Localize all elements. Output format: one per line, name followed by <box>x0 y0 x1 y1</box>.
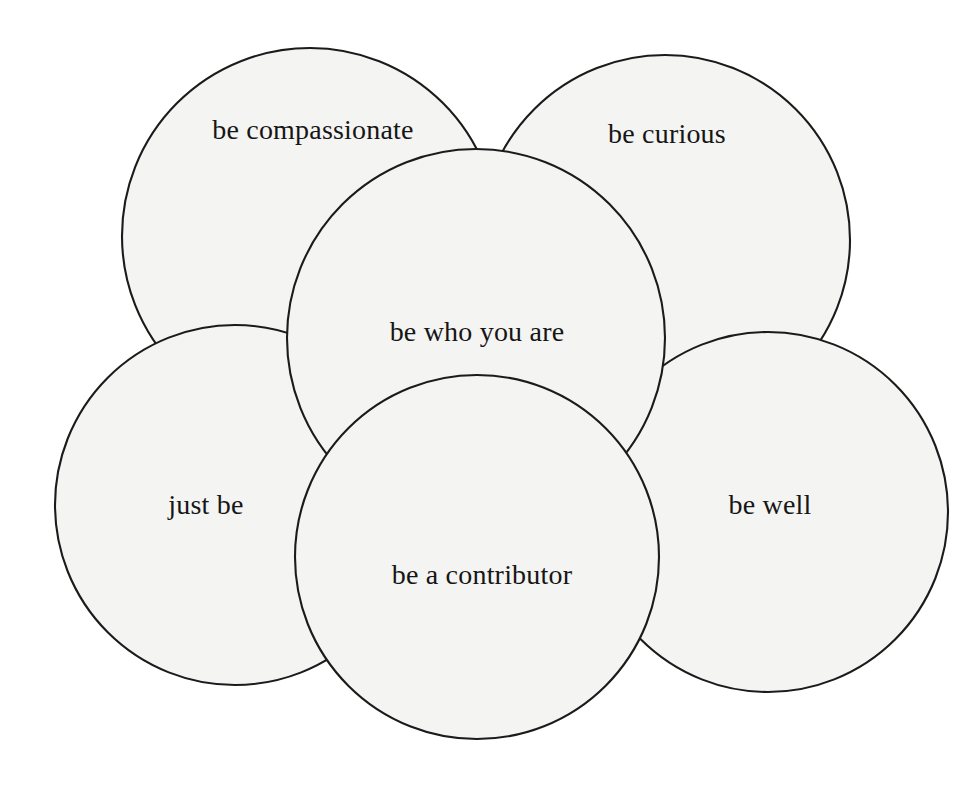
label-be-who-you-are: be who you are <box>390 316 565 347</box>
circle-be-a-contributor[interactable] <box>295 375 659 739</box>
diagram-canvas: be compassionate be curious just be be w… <box>0 0 963 795</box>
label-be-compassionate: be compassionate <box>212 114 413 145</box>
bottom-center-circle-layer <box>295 375 659 739</box>
label-be-curious: be curious <box>608 118 726 149</box>
label-be-a-contributor: be a contributor <box>392 559 573 590</box>
label-just-be: just be <box>167 489 243 520</box>
overlapping-circles-diagram: be compassionate be curious just be be w… <box>0 0 963 795</box>
label-be-well: be well <box>728 489 811 520</box>
